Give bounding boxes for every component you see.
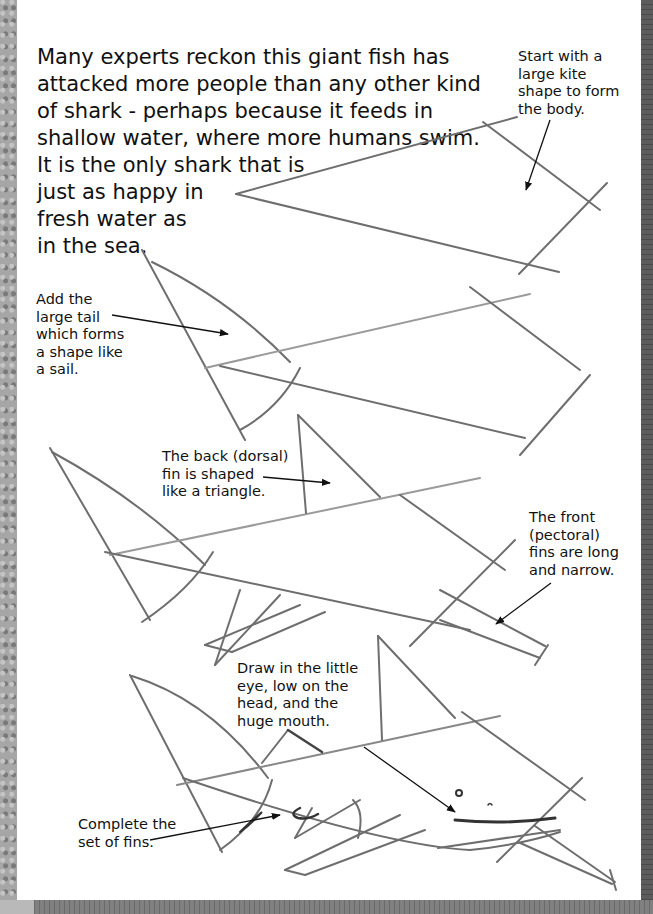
shark-drawing-steps [0, 0, 653, 914]
step-4-complete-shark [130, 636, 616, 890]
arrow-icon [112, 315, 228, 334]
arrow-icon [150, 815, 280, 840]
step-2-tail-and-body [142, 250, 590, 455]
arrow-icon [496, 583, 551, 624]
arrow-icon [263, 477, 330, 483]
shark-eye-icon [456, 790, 462, 796]
arrow-icon [526, 120, 550, 190]
step-3-fins [50, 415, 548, 665]
step-1-kite-body [236, 117, 607, 274]
arrow-icon [364, 747, 455, 812]
shark-eye-and-mouth [293, 790, 555, 822]
